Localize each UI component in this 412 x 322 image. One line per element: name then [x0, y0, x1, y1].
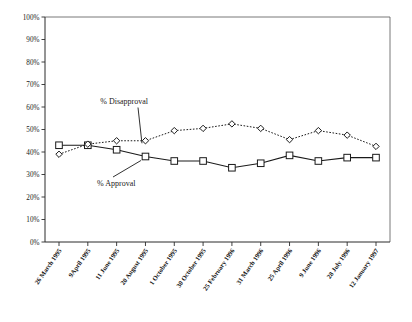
x-tick-label: 28 July 1996 [325, 246, 351, 279]
data-point-marker [229, 121, 235, 127]
series-annotations: % Disapproval% Approval [97, 97, 149, 188]
data-point-marker [142, 138, 148, 144]
chart-canvas: 100%90%80%70%60%50%40%30%20%10%0% 26 Mar… [0, 0, 412, 322]
data-point-marker [56, 142, 63, 149]
y-tick-label: 90% [26, 36, 39, 44]
x-axis-tick-labels: 26 March 19959April 199511 June 199520 A… [33, 246, 380, 291]
data-point-marker [257, 160, 264, 167]
data-point-marker [286, 136, 292, 142]
x-tick-label: 20 August 1995 [119, 246, 150, 286]
x-tick-label: 25 February 1996 [201, 246, 236, 291]
x-tick-label: 9April 1995 [67, 246, 92, 278]
approval-disapproval-line-chart: 100%90%80%70%60%50%40%30%20%10%0% 26 Mar… [0, 0, 412, 322]
data-point-marker [113, 138, 119, 144]
y-tick-label: 100% [23, 14, 40, 22]
y-axis-tick-labels: 100%90%80%70%60%50%40%30%20%10%0% [23, 14, 40, 247]
data-point-marker [56, 151, 62, 157]
y-tick-label: 10% [26, 216, 39, 224]
data-point-marker [229, 164, 236, 171]
data-point-marker [171, 158, 178, 165]
x-tick-label: 25 April 1996 [266, 246, 294, 282]
annotation-disapproval-leader [138, 108, 142, 144]
data-point-marker [200, 125, 206, 131]
x-tick-label: 1 October 1995 [148, 246, 179, 286]
y-tick-label: 0% [30, 239, 40, 247]
x-tick-label: 26 March 1995 [33, 246, 63, 285]
x-tick-label: 12 January 1997 [347, 246, 380, 289]
data-point-marker [258, 125, 264, 131]
y-tick-label: 20% [26, 194, 39, 202]
x-tick-label: 9 June 1996 [297, 246, 322, 278]
data-point-marker [373, 143, 379, 149]
data-point-marker [315, 127, 321, 133]
y-tick-label: 40% [26, 149, 39, 157]
data-point-marker [200, 158, 207, 165]
annotation-approval-leader [113, 161, 141, 178]
y-tick-label: 50% [26, 126, 39, 134]
x-tick-label: 30 October 1995 [175, 246, 208, 288]
data-point-marker [315, 158, 322, 165]
annotation-approval-label: % Approval [97, 179, 136, 188]
series-lines [59, 124, 376, 168]
y-tick-label: 30% [26, 171, 39, 179]
y-tick-label: 70% [26, 81, 39, 89]
data-point-marker [344, 154, 351, 161]
x-tick-label: 11 June 1995 [94, 246, 121, 280]
plot-frame [45, 17, 390, 242]
y-tick-label: 80% [26, 59, 39, 67]
annotation-disapproval-label: % Disapproval [100, 97, 149, 106]
x-axis-ticks [59, 242, 376, 246]
series-line-approval [59, 145, 376, 168]
data-point-marker [171, 127, 177, 133]
data-point-marker [286, 152, 293, 159]
y-axis-ticks [42, 17, 46, 242]
y-tick-label: 60% [26, 104, 39, 112]
data-point-marker [344, 132, 350, 138]
x-tick-label: 31 March 1996 [235, 246, 265, 285]
data-point-marker [113, 146, 120, 153]
data-point-marker [142, 153, 149, 160]
series-markers [56, 121, 380, 171]
series-line-disapproval [59, 124, 376, 154]
data-point-marker [373, 154, 380, 161]
